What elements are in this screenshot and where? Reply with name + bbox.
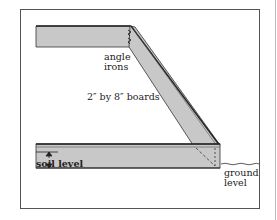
angle-irons-label-line2: irons [104, 62, 131, 72]
ground-level-label-line2: level [224, 178, 259, 188]
top-board [36, 26, 133, 47]
angle-irons-label: angle irons [104, 52, 131, 72]
ground-level-label: ground level [224, 168, 259, 188]
ground-level-line [221, 163, 259, 165]
boards-label: 2″ by 8″ boards [87, 92, 160, 102]
soil-level-label: soil level [36, 159, 83, 169]
